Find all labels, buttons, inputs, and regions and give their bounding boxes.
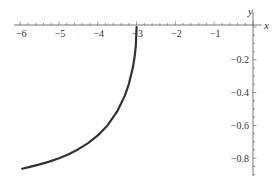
- x-tick-label: −5: [55, 28, 66, 39]
- y-axis: −0.2−0.4−0.6−0.8: [231, 12, 257, 176]
- x-tick-label: −6: [16, 28, 27, 39]
- x-tick-label: −4: [93, 28, 104, 39]
- y-tick-label: −0.4: [231, 87, 249, 98]
- series: [22, 27, 136, 169]
- series-line: [22, 27, 136, 169]
- x-tick-label: −1: [210, 28, 221, 39]
- x-tick-label: −3: [132, 28, 143, 39]
- y-tick-label: −0.2: [231, 54, 249, 65]
- y-tick-label: −0.8: [231, 153, 249, 164]
- y-axis-label: y: [247, 5, 253, 17]
- x-tick-label: −2: [171, 28, 182, 39]
- x-axis-label: x: [263, 19, 269, 31]
- chart: −6−5−4−3−2−1 −0.2−0.4−0.6−0.8 x y: [0, 0, 280, 184]
- y-tick-label: −0.6: [231, 120, 249, 131]
- x-axis: −6−5−4−3−2−1: [14, 22, 262, 40]
